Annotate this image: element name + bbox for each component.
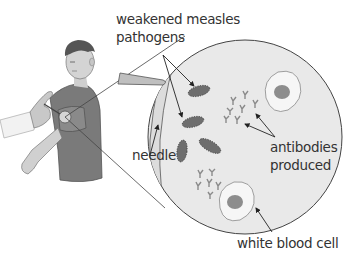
label-pathogens-line1: weakened measles [116, 11, 240, 27]
label-white-blood-cell: white blood cell [237, 235, 338, 251]
needle-shape [118, 73, 166, 85]
label-antibodies-line1: antibodies [270, 139, 337, 155]
magnified-view [118, 30, 342, 240]
label-pathogens-line2: pathogens [116, 29, 185, 45]
vaccination-diagram: weakened measles pathogens needle antibo… [0, 0, 350, 257]
person-illustration [0, 40, 102, 182]
label-needle: needle [132, 147, 176, 163]
label-antibodies-line2: produced [270, 157, 331, 173]
